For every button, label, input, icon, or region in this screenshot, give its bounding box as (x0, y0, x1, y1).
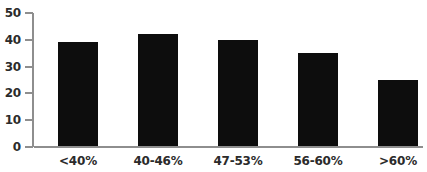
y-tick-mark-20 (25, 92, 33, 94)
y-tick-label-40: 40 (5, 32, 21, 48)
bar-3 (298, 53, 338, 147)
y-tick-mark-30 (25, 66, 33, 68)
y-tick-label-20: 20 (5, 85, 21, 101)
x-tick-label-1: 40-46% (118, 153, 198, 169)
y-tick-mark-10 (25, 119, 33, 121)
y-tick-label-30: 30 (5, 59, 21, 75)
y-tick-mark-50 (25, 12, 33, 14)
y-tick-label-0: 0 (13, 139, 21, 155)
x-tick-label-0: <40% (38, 153, 118, 169)
y-tick-label-10: 10 (5, 112, 21, 128)
plot-area (34, 13, 423, 147)
x-axis: <40% 40-46% 47-53% 56-60% >60% (34, 150, 423, 172)
bar-chart: 50 40 30 20 10 0 (0, 0, 427, 172)
x-tick-label-4: >60% (358, 153, 427, 169)
y-tick-mark-40 (25, 39, 33, 41)
x-tick-label-2: 47-53% (198, 153, 278, 169)
y-tick-label-50: 50 (5, 5, 21, 21)
x-tick-label-3: 56-60% (278, 153, 358, 169)
y-tick-mark-0 (25, 146, 33, 148)
x-axis-line (34, 146, 423, 148)
bar-1 (138, 34, 178, 147)
bar-2 (218, 40, 258, 147)
bar-4 (378, 80, 418, 147)
bar-0 (58, 42, 98, 147)
